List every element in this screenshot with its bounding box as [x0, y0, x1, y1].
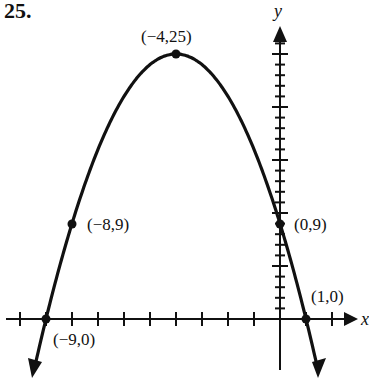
problem-number: 25. — [4, 0, 32, 23]
root-1-label: (1,0) — [311, 287, 344, 306]
y-axis-label: y — [272, 1, 282, 21]
vertex-point — [172, 50, 181, 59]
point-0-9 — [276, 220, 285, 229]
root-neg9 — [42, 315, 51, 324]
y-axis: y — [272, 1, 288, 370]
point-neg8-9 — [68, 220, 77, 229]
x-axis-arrow-icon — [344, 312, 358, 326]
x-axis: x — [6, 309, 369, 329]
root-1 — [302, 315, 311, 324]
y-axis-arrow-icon — [273, 26, 287, 42]
vertex-label: (−4,25) — [141, 27, 192, 46]
root-neg9-label: (−9,0) — [53, 330, 95, 349]
right-arrow-icon — [312, 358, 326, 378]
left-arrow-icon — [28, 358, 42, 378]
point-neg8-9-label: (−8,9) — [87, 215, 129, 234]
parabola-chart: 25. x y (−4,25) (−8,9) (0,9) (−9,0) (1,0… — [0, 0, 369, 385]
point-0-9-label: (0,9) — [294, 215, 327, 234]
x-axis-label: x — [360, 309, 369, 329]
